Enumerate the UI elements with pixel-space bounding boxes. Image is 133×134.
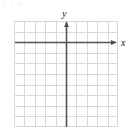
x-axis-label: x [121,38,125,48]
y-axis-label: y [62,9,66,19]
coordinate-grid-figure: b + o y x [0,0,133,134]
axes-layer [0,0,133,134]
